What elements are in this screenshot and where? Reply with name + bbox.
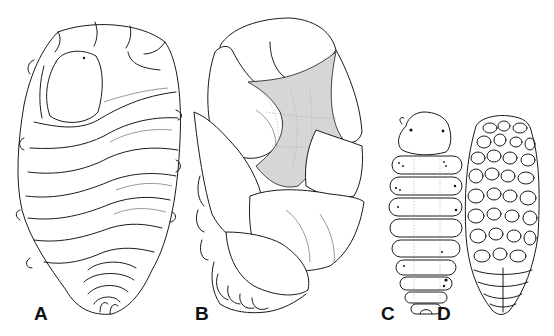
panel-label-d: D bbox=[437, 304, 451, 323]
specimen-b-drawing bbox=[194, 18, 364, 313]
panel-label-a: A bbox=[34, 304, 48, 323]
illustration-canvas bbox=[0, 0, 554, 336]
panel-label-c: C bbox=[381, 304, 395, 323]
panel-label-b: B bbox=[195, 304, 209, 323]
specimen-a-drawing bbox=[16, 22, 181, 314]
specimen-d-drawing bbox=[465, 115, 539, 314]
figure: A B C D bbox=[0, 0, 554, 336]
specimen-c-drawing bbox=[389, 112, 462, 314]
